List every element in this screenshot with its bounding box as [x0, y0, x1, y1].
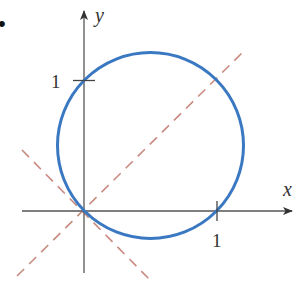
line-y-equals-neg-x [22, 150, 152, 282]
x-axis-label: x [282, 178, 292, 200]
x-tick-label: 1 [212, 230, 222, 251]
diagram-figure: • 1 1 x y [0, 0, 302, 288]
y-tick-label: 1 [51, 71, 61, 92]
y-axis-label: y [93, 4, 104, 27]
marker-dot: • [0, 11, 6, 36]
